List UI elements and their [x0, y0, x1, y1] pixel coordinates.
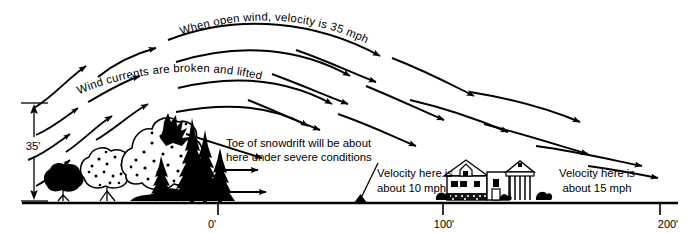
- annotation-velocity-100-line1: Velocity here is: [377, 167, 453, 179]
- annotation-broken-lifted: Wind currents are broken and lifted: [75, 62, 264, 96]
- wind-arrow-descend-6: [366, 86, 444, 120]
- wind-arrow-peak-3: [178, 81, 332, 104]
- height-label-35ft: 35': [26, 140, 41, 152]
- annotation-velocity-200-line1: Velocity here is: [559, 167, 635, 179]
- annotation-velocity-100-line2: about 10 mph: [377, 182, 446, 194]
- house-illustration: [436, 160, 552, 200]
- annotation-snowdrift-line2: here under severe conditions: [226, 151, 372, 163]
- wind-arrow-descend-1: [296, 50, 376, 82]
- axis-tick-label-0: 0': [208, 218, 216, 230]
- windbreak-vegetation: [44, 113, 235, 203]
- wind-arrow-far-2: [470, 92, 580, 122]
- annotation-velocity-200-line2: about 15 mph: [562, 182, 631, 194]
- snowdrift-leader: [354, 163, 378, 203]
- wind-arrow-descend-3: [248, 100, 320, 130]
- wind-arrow-rise-3: [36, 108, 78, 135]
- wind-arrow-descend-5: [392, 58, 474, 96]
- wind-diagram-figure: 0' 100' 200' 35': [0, 0, 696, 233]
- axis-tick-label-200: 200': [658, 218, 678, 230]
- annotation-open-wind-text: When open wind, velocity is 35 mph: [178, 11, 371, 46]
- axis-ticks: [218, 203, 660, 215]
- diagram-canvas: 0' 100' 200' 35': [0, 0, 696, 233]
- annotation-open-wind: When open wind, velocity is 35 mph: [178, 11, 371, 46]
- axis-tick-label-100: 100': [434, 218, 454, 230]
- wind-arrow-far-3: [484, 124, 588, 154]
- annotation-snowdrift-line1: Toe of snowdrift will be about: [226, 137, 372, 149]
- annotation-broken-lifted-text: Wind currents are broken and lifted: [75, 62, 264, 96]
- wind-arrow-far-4: [536, 146, 642, 166]
- shrub-small-left: [44, 163, 84, 201]
- wind-arrow-descend-2: [272, 74, 348, 104]
